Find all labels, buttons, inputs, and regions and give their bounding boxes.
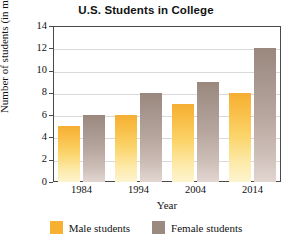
x-tick-label: 1994 (111, 184, 167, 195)
x-tick-label: 2004 (168, 184, 224, 195)
x-axis-ticks: 1984199420042014 (53, 184, 281, 200)
legend-swatch-female-icon (152, 221, 165, 234)
y-tick-mark (49, 93, 53, 94)
y-tick-label: 0 (18, 177, 47, 187)
y-tick-mark (49, 182, 53, 183)
y-tick-label: 12 (18, 43, 47, 53)
chart-legend: Male studentsFemale students (0, 221, 292, 234)
legend-label: Female students (171, 222, 242, 234)
x-tick-label: 1984 (54, 184, 110, 195)
y-tick-label: 8 (18, 87, 47, 97)
legend-label: Male students (69, 222, 130, 234)
legend-swatch-male-icon (50, 221, 63, 234)
y-tick-mark (49, 26, 53, 27)
y-tick-mark (49, 137, 53, 138)
legend-item-female[interactable]: Female students (152, 221, 242, 234)
y-tick-label: 4 (18, 132, 47, 142)
y-tick-label: 14 (18, 21, 47, 31)
y-tick-mark (49, 48, 53, 49)
y-axis-ticks: 02468101214 (53, 26, 281, 182)
y-tick-label: 6 (18, 110, 47, 120)
bar-chart-figure: U.S. Students in College Number of stude… (0, 0, 292, 240)
y-tick-mark (49, 71, 53, 72)
x-axis-title: Year (53, 199, 281, 211)
y-tick-mark (49, 115, 53, 116)
chart-title: U.S. Students in College (0, 4, 292, 16)
y-tick-mark (49, 160, 53, 161)
y-axis-title: Number of students (in millions) (0, 0, 12, 116)
y-tick-label: 2 (18, 154, 47, 164)
legend-item-male[interactable]: Male students (50, 221, 130, 234)
y-tick-label: 10 (18, 65, 47, 75)
x-tick-label: 2014 (225, 184, 281, 195)
